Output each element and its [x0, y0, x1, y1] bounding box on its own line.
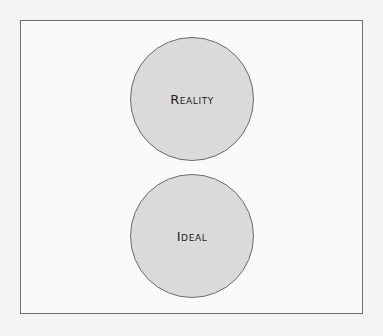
ideal-circle: Ideal — [130, 174, 254, 298]
reality-label: Reality — [170, 92, 214, 107]
ideal-label: Ideal — [177, 229, 208, 244]
reality-circle: Reality — [130, 37, 254, 161]
